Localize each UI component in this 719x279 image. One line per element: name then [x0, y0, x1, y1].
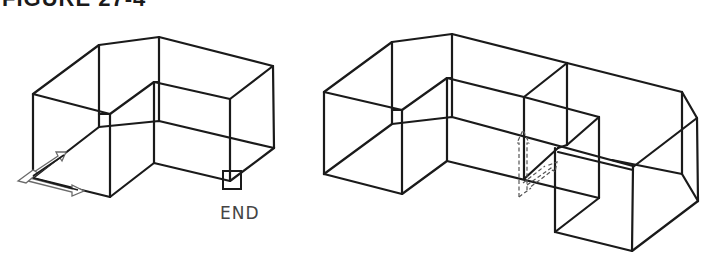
end-snap-label: END: [220, 203, 260, 223]
left-wireframe-solid: [33, 37, 274, 197]
right-wireframe-solid: [324, 34, 698, 251]
ucs-icon-left: [18, 152, 84, 196]
figure-canvas: END: [0, 0, 719, 279]
